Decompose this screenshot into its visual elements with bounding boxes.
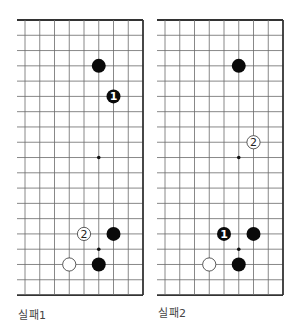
- move-number: 2: [250, 136, 257, 149]
- star-point: [237, 156, 241, 160]
- move-number: 1: [110, 90, 118, 103]
- black-stone: [92, 257, 106, 271]
- black-stone-icon: [92, 59, 106, 73]
- black-stone: [92, 59, 106, 73]
- white-stone: [203, 258, 216, 271]
- white-stone-move-2: 2: [77, 227, 90, 241]
- go-board-fail-2: 21: [157, 20, 283, 295]
- black-stone: [247, 227, 261, 241]
- white-stone-icon: [203, 258, 216, 271]
- go-diagrams: 1221: [0, 0, 297, 324]
- move-number: 1: [220, 228, 228, 241]
- move-number: 2: [81, 228, 88, 241]
- black-stone: [232, 59, 246, 73]
- black-stone-move-1: 1: [217, 227, 231, 241]
- star-point: [237, 247, 241, 251]
- caption-fail-2: 실패2: [158, 304, 187, 320]
- black-stone-icon: [232, 59, 246, 73]
- black-stone-move-1: 1: [107, 89, 121, 103]
- white-stone-move-2: 2: [247, 136, 260, 150]
- black-stone-icon: [92, 257, 106, 271]
- white-stone-icon: [63, 258, 76, 271]
- black-stone: [232, 257, 246, 271]
- black-stone-icon: [247, 227, 261, 241]
- go-board-fail-1: 12: [17, 20, 143, 295]
- black-stone: [107, 227, 121, 241]
- caption-fail-1: 실패1: [18, 306, 47, 322]
- star-point: [97, 156, 101, 160]
- black-stone-icon: [232, 257, 246, 271]
- black-stone-icon: [107, 227, 121, 241]
- white-stone: [63, 258, 76, 271]
- star-point: [97, 247, 101, 251]
